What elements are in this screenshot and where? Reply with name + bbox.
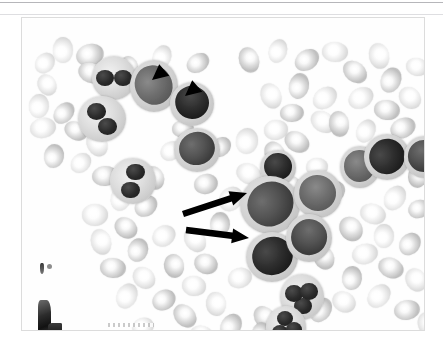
- erythrocyte: [181, 274, 208, 298]
- erythrocyte: [28, 93, 50, 119]
- erythrocyte: [148, 221, 179, 251]
- page-canvas: Grayscale photomicrograph of a stained p…: [0, 0, 443, 344]
- erythrocyte: [374, 224, 394, 248]
- erythrocyte: [366, 41, 392, 71]
- granulocyte-top-left: [92, 56, 136, 100]
- blast-cell-right-c: [404, 136, 424, 178]
- erythrocyte: [404, 56, 424, 78]
- erythrocyte: [395, 228, 424, 259]
- granulocyte-left: [78, 96, 126, 142]
- edge-smudge-lower-foot-icon: [48, 323, 62, 330]
- nuclear-lobe: [126, 164, 144, 181]
- erythrocyte: [341, 265, 363, 291]
- granulocyte-mid-left: [110, 158, 156, 204]
- blood-smear-micrograph: Grayscale photomicrograph of a stained p…: [22, 18, 424, 330]
- secondary-rule: [0, 14, 443, 15]
- blast-cell-right-of-center: [294, 170, 342, 218]
- top-rule: [0, 2, 443, 3]
- erythrocyte: [406, 197, 424, 221]
- erythrocyte: [88, 227, 115, 258]
- nuclear-lobe: [286, 322, 302, 330]
- erythrocyte: [82, 204, 108, 226]
- bottom-scratch-icon: [108, 323, 154, 327]
- erythrocyte: [309, 82, 342, 114]
- nuclear-lobe: [121, 182, 139, 199]
- erythrocyte: [373, 98, 401, 121]
- erythrocyte: [192, 172, 220, 197]
- erythrocyte: [322, 42, 349, 63]
- erythrocyte: [291, 44, 324, 75]
- nuclear-lobe: [96, 70, 114, 86]
- erythrocyte: [401, 265, 424, 296]
- erythrocyte: [339, 56, 372, 88]
- erythrocyte: [350, 241, 380, 267]
- blast-cell-mid-upper: [174, 128, 220, 172]
- erythrocyte: [162, 252, 187, 280]
- erythrocyte: [42, 142, 66, 169]
- figure-description: Grayscale photomicrograph of a stained p…: [22, 18, 90, 19]
- erythrocyte: [179, 224, 210, 257]
- erythrocyte: [205, 291, 228, 317]
- erythrocyte: [327, 110, 351, 139]
- erythrocyte: [266, 37, 291, 65]
- erythrocyte: [124, 235, 151, 264]
- edge-dot-icon: [47, 264, 52, 269]
- erythrocyte: [191, 251, 220, 278]
- nucleus: [294, 170, 341, 217]
- erythrocyte: [363, 280, 395, 313]
- blast-cell-lower-right: [286, 214, 332, 262]
- erythrocyte: [183, 49, 213, 77]
- erythrocyte: [286, 71, 311, 101]
- erythrocyte: [99, 257, 126, 279]
- nuclear-lobe: [98, 118, 117, 135]
- erythrocyte: [375, 254, 407, 282]
- blast-cell-upper-right: [170, 82, 214, 126]
- erythrocyte: [345, 83, 378, 113]
- erythrocyte: [209, 211, 230, 236]
- erythrocyte: [234, 127, 259, 156]
- nucleus: [405, 137, 424, 176]
- nuclear-lobe: [87, 103, 106, 120]
- nuclear-lobe: [300, 283, 318, 300]
- micrograph-figure-frame: Grayscale photomicrograph of a stained p…: [21, 17, 425, 331]
- nucleus: [170, 81, 215, 126]
- erythrocyte: [53, 37, 73, 63]
- erythrocyte: [329, 288, 359, 317]
- nuclear-lobe: [114, 70, 132, 86]
- edge-smudge-upper-icon: [40, 263, 44, 274]
- erythrocyte: [235, 44, 262, 75]
- nucleus: [176, 129, 218, 170]
- erythrocyte: [280, 103, 305, 122]
